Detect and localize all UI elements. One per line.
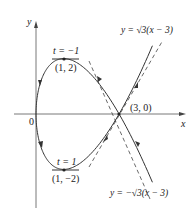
y-axis-label: y bbox=[27, 17, 31, 27]
origin-label: 0 bbox=[29, 117, 34, 127]
tangent-label-positive: y = √3(x − 3) bbox=[121, 26, 173, 36]
point-label-1-neg2: (1, −2) bbox=[52, 174, 79, 184]
x-axis-arrow-icon bbox=[179, 112, 186, 116]
point-1-2 bbox=[62, 57, 65, 60]
point-1-neg2 bbox=[62, 168, 65, 171]
point-label-3-0: (3, 0) bbox=[130, 103, 152, 113]
param-label-t-1: t = 1 bbox=[57, 157, 77, 167]
param-label-t-neg1: t = −1 bbox=[53, 46, 79, 56]
direction-arrow-icon bbox=[38, 80, 42, 86]
point-label-1-2: (1, 2) bbox=[55, 63, 77, 73]
y-axis-arrow-icon bbox=[34, 21, 38, 28]
tangent-label-negative: y = −√3(x − 3) bbox=[110, 189, 168, 199]
point-3-0 bbox=[117, 112, 120, 115]
x-axis-label: x bbox=[181, 119, 185, 129]
parametric-curve-figure: y x 0 y = √3(x − 3) y = −√3(x − 3) t = −… bbox=[0, 0, 196, 214]
